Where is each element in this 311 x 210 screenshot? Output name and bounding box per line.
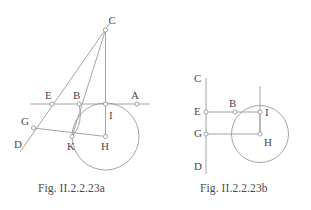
figure-a-point-C[interactable] [103,28,107,32]
figure-a-point-G[interactable] [31,126,35,130]
figure-a-point-K[interactable] [70,134,74,138]
figure-b-point-E[interactable] [204,110,208,114]
figure-a-label-G: G [21,115,29,127]
figure-b-label-B: B [229,97,236,109]
figure-a-label-I: I [109,109,113,121]
figure-b-label-H: H [264,136,272,148]
figure-a-label-B: B [73,89,80,101]
figure-b-caption: Fig. II.2.2.23b [200,182,268,194]
figure-b-label-D: D [194,160,202,172]
figure-b-label-I: I [265,106,269,118]
figure-b-label-G: G [194,127,202,139]
figure-a-segment-G-H [34,128,106,137]
geometry-diagram: CEBAIGDKHCEBIGHD [0,0,311,210]
figure-a-segment-C-K [72,30,106,137]
figure-a-point-B[interactable] [77,102,81,106]
figure-a-label-E: E [45,89,52,101]
figure-b-point-I[interactable] [258,110,262,114]
figure-a-caption: Fig. II.2.2.23a [38,182,105,194]
figure-b-point-G[interactable] [204,132,208,136]
figure-b-point-B[interactable] [233,110,237,114]
figure-b: CEBIGHD [194,72,289,174]
figure-a-label-H: H [101,140,109,152]
figure-a: CEBAIGDKH [14,14,150,170]
figure-a-point-H[interactable] [103,134,107,138]
figure-b-label-E: E [194,105,201,117]
figure-a-label-A: A [131,89,139,101]
figure-a-label-K: K [67,140,75,152]
figure-a-point-E[interactable] [50,102,54,106]
figure-b-point-H[interactable] [258,132,262,136]
figure-a-label-C: C [109,14,116,26]
figure-a-point-I[interactable] [103,102,107,106]
figure-b-label-C: C [194,72,201,84]
figure-a-line-C-D-slanted [20,23,110,152]
figure-page: CEBAIGDKHCEBIGHD Fig. II.2.2.23a Fig. II… [0,0,311,210]
figure-a-label-D: D [14,138,22,150]
figure-a-point-A[interactable] [135,102,139,106]
